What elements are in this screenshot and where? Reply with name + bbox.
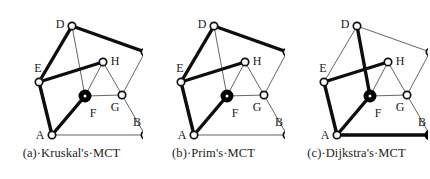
graph-node-E [177,78,184,85]
graph-dijkstra: ABCDEFGH [285,0,428,140]
panel-kruskal: ABCDEFGH (a)·Kruskal's·MCT [0,0,143,179]
graph-node-A [48,131,55,138]
graph-prim: ABCDEFGH [142,0,285,140]
graph-node-H [241,58,248,65]
vertex-label-H: H [253,54,262,68]
graph-node-A [190,131,197,138]
vertex-label-A: A [321,128,330,140]
graph-node-G [260,91,267,98]
graph-node-D [353,22,360,29]
graph-node-G [403,91,410,98]
caption-dijkstra: (c)·Dijkstra's·MCT [283,146,430,161]
vertex-label-F: F [375,106,382,120]
graph-node-D [210,22,217,29]
graph-node-B [425,130,428,139]
vertex-label-H: H [111,54,120,68]
vertex-label-G: G [253,100,262,114]
tree-edge-D-C [72,26,143,52]
vertex-label-A: A [178,128,187,140]
graph-kruskal: ABCDEFGH [0,0,143,140]
vertex-label-H: H [396,54,405,68]
vertex-label-F: F [90,106,97,120]
graph-edge-C-G [407,52,428,95]
vertex-label-E: E [34,61,41,75]
graph-node-D [68,22,75,29]
graph-edge-C-G [264,52,285,95]
graph-node-C [426,48,428,55]
tree-edge-A-F [194,96,227,135]
graph-edge-C-G [122,52,143,95]
vertex-label-D: D [198,17,207,31]
panel-dijkstra: ABCDEFGH (c)·Dijkstra's·MCT [285,0,428,179]
panel-prim: ABCDEFGH (b)·Prim's·MCT [142,0,285,179]
graph-node-center-F [226,95,229,98]
vertex-label-B: B [133,115,141,129]
vertex-label-A: A [36,128,45,140]
graph-node-A [333,131,340,138]
figure-three-spanning-trees: ABCDEFGH (a)·Kruskal's·MCT ABCDEFGH (b)·… [0,0,430,179]
graph-node-E [35,78,42,85]
vertex-label-D: D [341,17,350,31]
graph-edge-D-F [72,26,85,96]
graph-node-center-F [84,95,87,98]
tree-edge-A-F [52,96,85,135]
vertex-label-E: E [319,61,326,75]
graph-node-center-F [369,95,372,98]
vertex-label-G: G [111,100,120,114]
graph-edge-D-C [357,26,428,52]
vertex-label-B: B [418,115,426,129]
vertex-label-D: D [56,17,65,31]
vertex-label-F: F [232,106,239,120]
caption-kruskal: (a)·Kruskal's·MCT [0,146,143,161]
graph-node-H [384,58,391,65]
graph-node-E [320,78,327,85]
tree-edge-A-F [337,96,370,135]
graph-node-G [118,91,125,98]
graph-node-H [99,58,106,65]
vertex-label-G: G [396,100,405,114]
graph-edge-D-F [214,26,227,96]
caption-prim: (b)·Prim's·MCT [142,146,285,161]
vertex-label-E: E [176,61,183,75]
tree-edge-D-C [214,26,285,52]
vertex-label-B: B [275,115,283,129]
tree-edge-D-F [357,26,370,96]
